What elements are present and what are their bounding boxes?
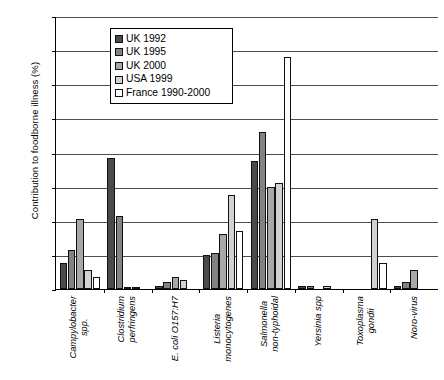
x-axis-label: Listeriamonocytogenes xyxy=(212,296,234,362)
bar xyxy=(180,280,188,289)
bar xyxy=(394,286,402,289)
x-tick-mark xyxy=(152,289,153,293)
x-axis-label: E. coli O157:H7 xyxy=(169,296,180,361)
x-axis-label: Campylobacterspp. xyxy=(68,296,90,359)
x-axis-label-line: Toxoplasma xyxy=(355,296,366,346)
y-axis-title: Contribution to foodborne illness (%) xyxy=(29,11,40,271)
legend-label: UK 1995 xyxy=(126,47,166,57)
x-axis-label-line: Clostridium xyxy=(116,296,127,343)
bar xyxy=(410,270,418,289)
x-axis-label-line: Campylobacter xyxy=(68,296,79,359)
legend-swatch-icon xyxy=(115,89,123,97)
bar xyxy=(275,183,283,289)
bar xyxy=(236,231,244,289)
x-axis-label-line: Noro-virus xyxy=(409,296,420,339)
x-tick-mark xyxy=(390,289,391,293)
x-axis-label: Clostridiumperfringens xyxy=(116,296,138,343)
bar-group xyxy=(247,17,295,289)
bar xyxy=(76,219,84,289)
legend-item: USA 1999 xyxy=(115,73,228,87)
legend-swatch-icon xyxy=(115,35,123,43)
x-label-cell: Yersinia spp xyxy=(294,294,342,380)
bar xyxy=(371,219,379,289)
x-label-cell: Salmonellanon-typhoidal xyxy=(247,294,295,380)
bar xyxy=(267,187,275,289)
bar xyxy=(251,161,259,289)
bar xyxy=(323,286,331,289)
bar xyxy=(379,263,387,289)
x-label-cell: Toxoplasmagondii xyxy=(342,294,390,380)
bar-group xyxy=(390,17,438,289)
bar xyxy=(298,286,306,289)
x-axis-label: Toxoplasmagondii xyxy=(355,296,377,346)
legend-item: UK 1992 xyxy=(115,32,228,46)
bar xyxy=(211,253,219,289)
bar xyxy=(124,287,132,289)
legend: UK 1992UK 1995UK 2000USA 1999France 1990… xyxy=(110,28,233,104)
legend-item: UK 2000 xyxy=(115,59,228,73)
bar-chart: Contribution to foodborne illness (%) 80… xyxy=(0,0,444,380)
x-label-cell: Noro-virus xyxy=(390,294,438,380)
x-tick-mark xyxy=(343,289,344,293)
bar xyxy=(116,216,124,289)
x-tick-mark xyxy=(295,289,296,293)
x-axis-label: Salmonellanon-typhoidal xyxy=(259,296,281,352)
x-label-cell: Campylobacterspp. xyxy=(55,294,103,380)
x-axis-category-labels: Campylobacterspp.ClostridiumperfringensE… xyxy=(55,294,438,380)
bar xyxy=(107,158,115,289)
legend-swatch-icon xyxy=(115,48,123,56)
bar xyxy=(93,277,101,289)
legend-item: France 1990-2000 xyxy=(115,86,228,100)
x-axis-label: Noro-virus xyxy=(409,296,420,339)
bar xyxy=(163,282,171,289)
bar xyxy=(203,255,211,289)
bar xyxy=(172,277,180,289)
legend-label: USA 1999 xyxy=(126,74,172,84)
x-axis-label-line: spp. xyxy=(79,296,90,359)
bar xyxy=(60,263,68,289)
legend-swatch-icon xyxy=(115,76,123,84)
x-axis-label-line: gondii xyxy=(366,296,377,346)
x-axis-label-line: perfringens xyxy=(127,296,138,343)
x-label-cell: Listeriamonocytogenes xyxy=(199,294,247,380)
x-axis-label: Yersinia spp xyxy=(313,296,324,347)
bar xyxy=(84,270,92,289)
x-axis-label-line: monocytogenes xyxy=(223,296,234,362)
x-tick-mark xyxy=(247,289,248,293)
bar-group xyxy=(343,17,391,289)
bar xyxy=(219,234,227,289)
bar xyxy=(228,195,236,289)
legend-label: UK 1992 xyxy=(126,34,166,44)
bar xyxy=(307,286,315,289)
x-axis-label-line: non-typhoidal xyxy=(270,296,281,352)
x-label-cell: Clostridiumperfringens xyxy=(103,294,151,380)
x-tick-mark xyxy=(199,289,200,293)
x-axis-label-line: Yersinia spp xyxy=(313,296,324,347)
x-axis-label-line: Listeria xyxy=(212,296,223,362)
x-axis-label-line: Salmonella xyxy=(259,296,270,352)
legend-swatch-icon xyxy=(115,62,123,70)
x-tick-mark xyxy=(104,289,105,293)
bar xyxy=(132,287,140,289)
y-tick-mark xyxy=(52,290,56,291)
bar xyxy=(402,282,410,289)
bar-group xyxy=(56,17,104,289)
legend-label: France 1990-2000 xyxy=(126,88,210,98)
legend-label: UK 2000 xyxy=(126,61,166,71)
legend-item: UK 1995 xyxy=(115,46,228,60)
bar xyxy=(259,132,267,289)
bar xyxy=(155,286,163,289)
bar-group xyxy=(295,17,343,289)
bar xyxy=(68,250,76,289)
x-label-cell: E. coli O157:H7 xyxy=(151,294,199,380)
x-axis-label-line: E. coli O157:H7 xyxy=(169,296,180,361)
bar xyxy=(284,57,292,289)
